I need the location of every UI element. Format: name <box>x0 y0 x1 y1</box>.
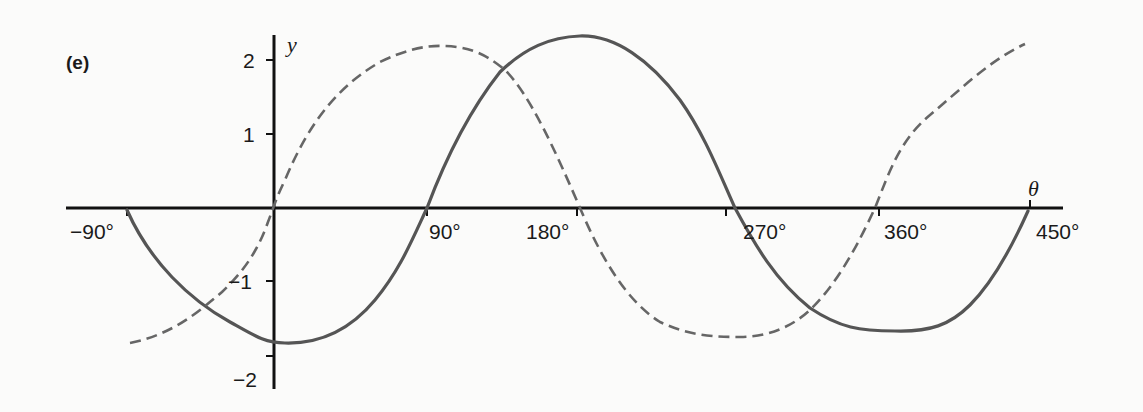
panel-label: (e) <box>66 53 89 72</box>
x-tick-label-360: 360° <box>884 221 927 242</box>
chart-plot <box>0 0 1143 412</box>
y-tick-label-neg2: −2 <box>233 369 257 390</box>
x-tick-label-180: 180° <box>526 221 569 242</box>
chart-figure: (e) y θ −90° 90° 180° 270° 360° 450° 2 1… <box>0 0 1143 412</box>
x-tick-label-270: 270° <box>743 221 786 242</box>
y-axis-label: y <box>287 34 297 56</box>
y-tick-label-neg1: −1 <box>228 271 252 292</box>
solid-curve <box>127 36 1028 343</box>
x-tick-label-neg90: −90° <box>70 221 114 242</box>
x-tick-label-450: 450° <box>1036 221 1079 242</box>
y-tick-label-1: 1 <box>243 124 255 145</box>
y-tick-label-2: 2 <box>243 50 255 71</box>
x-tick-label-90: 90° <box>429 221 461 242</box>
dashed-curve <box>130 44 1025 343</box>
x-axis-label: θ <box>1028 178 1039 200</box>
